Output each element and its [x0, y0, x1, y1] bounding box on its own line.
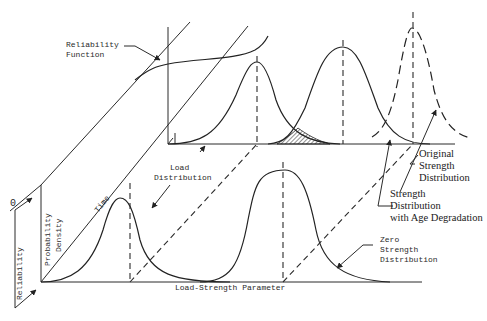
- zero-strength-label-3: Distribution: [380, 255, 438, 264]
- front-plane-curves: [41, 162, 390, 282]
- diagram-canvas: 0 Reliability Probability Density Load-S…: [0, 0, 487, 321]
- load-strength-axis-label: Load-Strength Parameter: [175, 283, 286, 292]
- back-plane: Reliability Function: [66, 12, 470, 147]
- reliability-function-label-1: Reliability: [66, 40, 119, 49]
- strength-age-label-3: with Age Degradation: [390, 212, 483, 223]
- reliability-function-pointer: [124, 46, 160, 60]
- probability-density-label-2: Density: [54, 218, 63, 252]
- strength-with-age-curve: [268, 47, 430, 144]
- reliability-function-label-2: Function: [66, 50, 105, 59]
- zero-strength-curve: [200, 170, 390, 282]
- strength-age-label-2: Distribution: [390, 200, 442, 211]
- zero-strength-label-1: Zero: [380, 235, 399, 244]
- strength-age-label-1: Strength: [390, 188, 426, 199]
- load-arrow-up: [200, 146, 205, 152]
- load-distribution-annotation: Load Distribution: [152, 146, 212, 208]
- back-plane-corner: [168, 138, 173, 144]
- load-mean-projection: [130, 144, 257, 282]
- load-distribution-label-2: Distribution: [154, 173, 212, 182]
- load-arrow-down: [152, 185, 170, 208]
- load-strength-interference-diagram: 0 Reliability Probability Density Load-S…: [0, 0, 487, 321]
- probability-density-label-1: Probability: [43, 213, 52, 266]
- original-strength-curve: [372, 28, 470, 138]
- load-distribution-label-1: Load: [170, 163, 189, 172]
- original-strength-label-3: Distribution: [419, 172, 471, 183]
- interference-region: [277, 128, 330, 144]
- front-load-distribution-curve: [41, 198, 230, 282]
- reliability-function-curve: [135, 36, 268, 80]
- strength-annotations: Original Strength Distribution Strength …: [337, 110, 483, 268]
- original-strength-label-2: Strength: [419, 160, 455, 171]
- reliability-axis-label: Reliability: [15, 247, 24, 300]
- zero-strength-label-2: Strength: [380, 245, 419, 254]
- reliability-plane: 0 Reliability: [10, 198, 36, 308]
- zero-strength-leader: [337, 245, 373, 268]
- original-strength-label-1: Original: [419, 148, 454, 159]
- back-load-distribution-curve: [168, 62, 340, 144]
- time-axis-line: [41, 26, 248, 282]
